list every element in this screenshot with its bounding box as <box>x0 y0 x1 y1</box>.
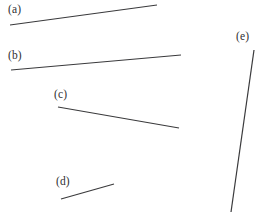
segment-label-e: (e) <box>236 30 249 42</box>
line-segment-b <box>11 55 181 70</box>
line-segment-c <box>58 107 179 128</box>
line-segment-e <box>231 50 254 212</box>
segment-label-d: (d) <box>56 175 70 187</box>
segment-label-a: (a) <box>8 3 21 15</box>
segment-group <box>10 5 254 212</box>
line-segments-canvas <box>0 0 257 212</box>
line-segments-figure: (a) (b) (c) (d) (e) <box>0 0 257 212</box>
segment-label-b: (b) <box>8 49 22 61</box>
segment-label-c: (c) <box>54 88 67 100</box>
line-segment-a <box>10 5 157 25</box>
